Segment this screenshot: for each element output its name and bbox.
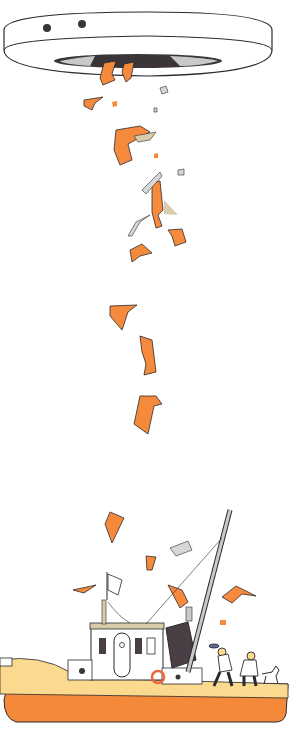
ufo <box>4 12 272 76</box>
cabin-door <box>114 633 130 677</box>
dog <box>262 666 279 684</box>
boat <box>0 510 288 722</box>
ufo-light <box>43 24 51 32</box>
grey-fragments <box>128 86 192 556</box>
fragments <box>73 61 256 625</box>
sailors <box>209 644 279 686</box>
illustration <box>0 0 298 735</box>
flag <box>108 574 122 595</box>
ufo-light <box>78 20 86 28</box>
